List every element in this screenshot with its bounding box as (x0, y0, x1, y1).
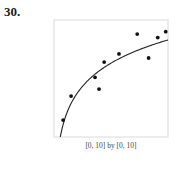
data-point (164, 30, 168, 34)
data-point (156, 36, 160, 40)
data-point (97, 87, 101, 91)
data-point (93, 75, 97, 79)
data-point (102, 60, 106, 64)
data-point (135, 32, 139, 36)
data-points (61, 30, 167, 122)
data-point (117, 52, 121, 56)
data-point (61, 118, 65, 122)
plot-frame (54, 20, 168, 137)
data-point (147, 56, 151, 60)
data-point (69, 94, 73, 98)
viewing-window-label: [0, 10] by [0, 10] (54, 141, 168, 150)
regression-curve (60, 40, 168, 137)
